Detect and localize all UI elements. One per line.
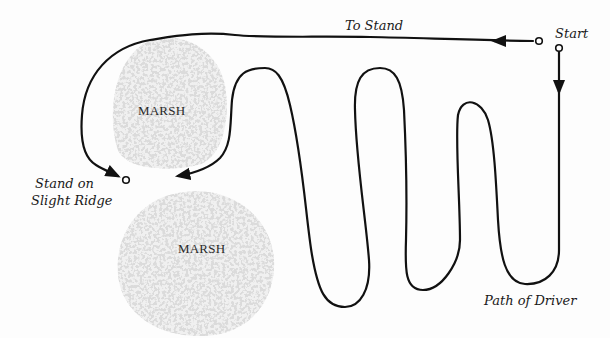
stand-point bbox=[123, 177, 130, 184]
marsh-lower-area bbox=[118, 191, 275, 336]
to-stand-label: To Stand bbox=[345, 18, 403, 34]
marsh-lower-label: MARSH bbox=[178, 241, 225, 257]
marsh-upper-label: MARSH bbox=[138, 103, 185, 119]
start-label: Start bbox=[555, 26, 588, 42]
drive-diagram: Start To Stand Stand on Slight Ridge Pat… bbox=[0, 0, 610, 338]
stand-label-line1: Stand on bbox=[35, 176, 94, 192]
start-point-top bbox=[536, 38, 543, 45]
path-of-driver-label: Path of Driver bbox=[484, 293, 576, 309]
start-point-right bbox=[556, 45, 563, 52]
stand-label-line2: Slight Ridge bbox=[31, 193, 113, 209]
